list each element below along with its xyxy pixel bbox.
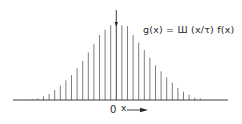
x-direction-arrowhead-icon [140,108,148,112]
formula-label: g(x) = Ш (x/τ) f(x) [143,24,234,35]
x-axis-label: x [121,103,126,113]
y-axis-arrowhead-icon [115,22,118,27]
origin-label: 0 [110,104,116,115]
